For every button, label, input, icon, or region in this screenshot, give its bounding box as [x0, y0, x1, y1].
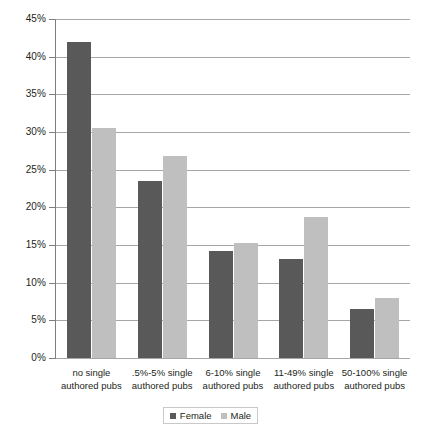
- bar-male[interactable]: [92, 128, 116, 358]
- x-axis-label-line: authored pubs: [127, 379, 198, 392]
- plot-area: [56, 19, 410, 358]
- bar-male[interactable]: [234, 243, 258, 358]
- x-axis-label: .5%-5% singleauthored pubs: [127, 366, 198, 392]
- bar-group: [67, 19, 116, 358]
- y-axis-tick-label: 10%: [2, 278, 46, 288]
- y-axis-tick-label: 40%: [2, 52, 46, 62]
- bar-female[interactable]: [350, 309, 374, 358]
- legend-box: FemaleMale: [163, 407, 258, 424]
- bar-female[interactable]: [209, 251, 233, 358]
- x-axis-label: 11-49% singleauthored pubs: [268, 366, 339, 392]
- bar-female[interactable]: [279, 259, 303, 358]
- y-axis-tick-label: 45%: [2, 14, 46, 24]
- x-axis-label: 50-100% singleauthored pubs: [339, 366, 410, 392]
- legend-swatch-female-icon: [170, 413, 176, 419]
- x-axis-label-line: no single: [56, 366, 127, 379]
- bar-male[interactable]: [304, 217, 328, 358]
- bar-female[interactable]: [67, 42, 91, 358]
- x-axis-label: 6-10% singleauthored pubs: [198, 366, 269, 392]
- x-axis-label-line: authored pubs: [339, 379, 410, 392]
- y-axis-tick-label: 0%: [2, 353, 46, 363]
- y-axis-tick-label: 30%: [2, 127, 46, 137]
- x-axis-label: no singleauthored pubs: [56, 366, 127, 392]
- y-axis-tick-label: 35%: [2, 89, 46, 99]
- legend-label: Male: [231, 410, 252, 421]
- x-axis-labels: no singleauthored pubs.5%-5% singleautho…: [56, 366, 410, 400]
- bar-group: [138, 19, 187, 358]
- bar-chart: 0%5%10%15%20%25%30%35%40%45% no singleau…: [0, 0, 421, 431]
- y-axis-tick-label: 15%: [2, 240, 46, 250]
- x-axis-label-line: .5%-5% single: [127, 366, 198, 379]
- bar-group: [279, 19, 328, 358]
- x-axis-label-line: authored pubs: [268, 379, 339, 392]
- bar-male[interactable]: [375, 298, 399, 358]
- bar-group: [209, 19, 258, 358]
- y-axis-tick-label: 20%: [2, 202, 46, 212]
- bar-female[interactable]: [138, 181, 162, 358]
- legend: FemaleMale: [0, 407, 421, 424]
- x-axis-label-line: 50-100% single: [339, 366, 410, 379]
- x-axis-label-line: authored pubs: [198, 379, 269, 392]
- y-axis-tick-label: 25%: [2, 165, 46, 175]
- gridline: [56, 358, 410, 359]
- bar-group: [350, 19, 399, 358]
- legend-item-female[interactable]: Female: [170, 410, 212, 421]
- x-axis-label-line: 6-10% single: [198, 366, 269, 379]
- x-axis-label-line: 11-49% single: [268, 366, 339, 379]
- legend-item-male[interactable]: Male: [221, 410, 252, 421]
- y-axis-tick-label: 5%: [2, 315, 46, 325]
- bar-male[interactable]: [163, 156, 187, 358]
- x-axis-label-line: authored pubs: [56, 379, 127, 392]
- legend-swatch-male-icon: [221, 413, 227, 419]
- legend-label: Female: [180, 410, 212, 421]
